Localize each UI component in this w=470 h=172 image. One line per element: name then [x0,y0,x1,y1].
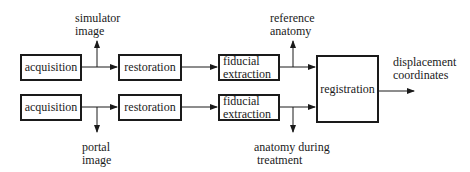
reference-anatomy-label: reference anatomy [270,12,315,38]
acquisition-label: acquisition [25,61,78,74]
extraction-label: extraction [223,68,271,81]
displacement-coordinates-label: displacement coordinates [393,56,456,82]
simulator-image-label: simulator image [75,12,120,38]
acquisition-label: acquisition [25,101,78,114]
anatomy-during-treatment-label: anatomy during treatment [254,141,330,167]
restoration-label: restoration [124,61,175,74]
fiducial-label: fiducial [223,95,271,108]
fiducial-extraction-box-bottom: fiducial extraction [218,94,280,121]
acquisition-box-bottom: acquisition [20,94,82,121]
fiducial-label: fiducial [223,55,271,68]
registration-label: registration [320,83,375,96]
portal-image-label: portal image [82,141,111,167]
extraction-label: extraction [223,108,271,121]
restoration-box-bottom: restoration [118,94,182,121]
acquisition-box-top: acquisition [20,54,82,81]
fiducial-extraction-box-top: fiducial extraction [218,54,280,81]
flow-diagram: acquisition restoration fiducial extract… [0,0,470,172]
connector-arrows [0,0,470,172]
registration-box: registration [316,55,379,123]
restoration-label: restoration [124,101,175,114]
restoration-box-top: restoration [118,54,182,81]
